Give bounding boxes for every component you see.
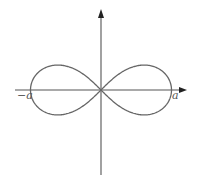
y-axis-arrow-icon xyxy=(98,9,104,18)
label-negative-a: −a xyxy=(17,89,33,102)
x-axis-arrow-icon xyxy=(179,87,187,93)
label-positive-a: a xyxy=(172,89,179,102)
lemniscate-diagram: −a a xyxy=(0,0,197,181)
